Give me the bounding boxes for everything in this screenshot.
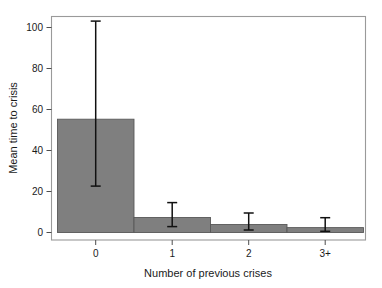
x-tick-label-3: 3+	[319, 248, 331, 259]
y-tick-label-20: 20	[32, 186, 44, 197]
x-axis-title: Number of previous crises	[144, 267, 272, 279]
y-tick-label-100: 100	[26, 22, 43, 33]
x-tick-label-1: 1	[169, 248, 175, 259]
y-axis-title: Mean time to crisis	[7, 82, 19, 174]
y-tick-label-60: 60	[32, 104, 44, 115]
x-tick-label-0: 0	[93, 248, 99, 259]
y-tick-label-40: 40	[32, 145, 44, 156]
bar-chart-with-error-bars: 0 20 40 60 80 100 Mean time to crisis	[0, 0, 382, 288]
x-tick-label-2: 2	[246, 248, 252, 259]
y-tick-label-80: 80	[32, 63, 44, 74]
chart-figure: 0 20 40 60 80 100 Mean time to crisis	[0, 0, 382, 288]
y-tick-label-0: 0	[37, 227, 43, 238]
